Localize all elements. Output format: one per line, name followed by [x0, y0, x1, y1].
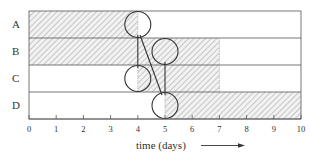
x-tick-label: 1	[54, 124, 58, 134]
x-axis-label: time (days)	[136, 139, 186, 152]
x-tick-label: 6	[190, 124, 194, 134]
x-tick-label: 0	[27, 124, 31, 134]
row-label-c: C	[12, 72, 19, 84]
hatched-interval-a	[29, 11, 138, 38]
x-tick-label: 8	[244, 124, 248, 134]
row-label-d: D	[12, 99, 20, 111]
row-label-a: A	[12, 18, 20, 30]
hatched-interval-c	[138, 65, 220, 92]
x-tick-label: 7	[217, 124, 221, 134]
x-tick-label: 2	[81, 124, 85, 134]
x-tick-label: 9	[272, 124, 276, 134]
x-axis: 012345678910 time (days)	[27, 115, 305, 152]
x-tick-label: 4	[136, 124, 141, 134]
hatched-interval-d	[165, 92, 301, 119]
schedule-diagram: A B C D 012345678910 time (days)	[0, 0, 311, 158]
row-labels: A B C D	[12, 18, 20, 111]
x-tick-label: 5	[163, 124, 167, 134]
arrow-right-icon	[201, 143, 245, 147]
x-tick-label: 10	[297, 124, 306, 134]
row-label-b: B	[12, 45, 19, 57]
hatched-interval-b	[29, 38, 219, 65]
x-tick-label: 3	[108, 124, 112, 134]
